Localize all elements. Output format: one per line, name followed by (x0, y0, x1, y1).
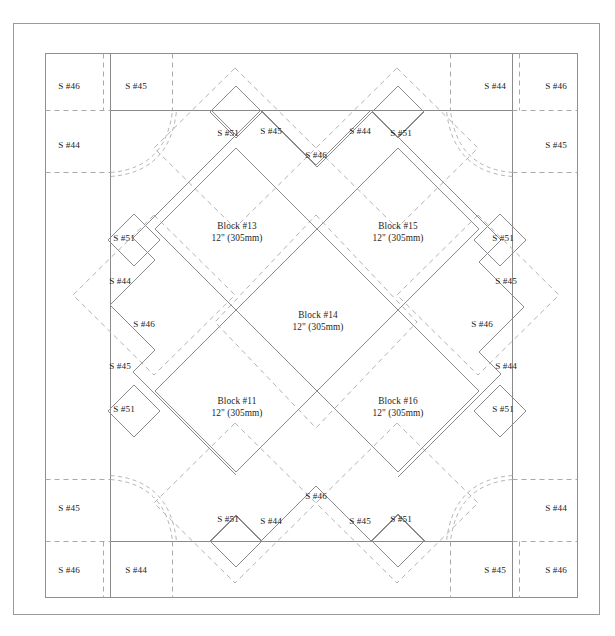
quilt-layout-svg (0, 0, 615, 636)
canvas-background (0, 0, 615, 636)
quilt-diagram-page: S #46S #45S #44S #46S #44S #45S #51S #45… (0, 0, 615, 636)
